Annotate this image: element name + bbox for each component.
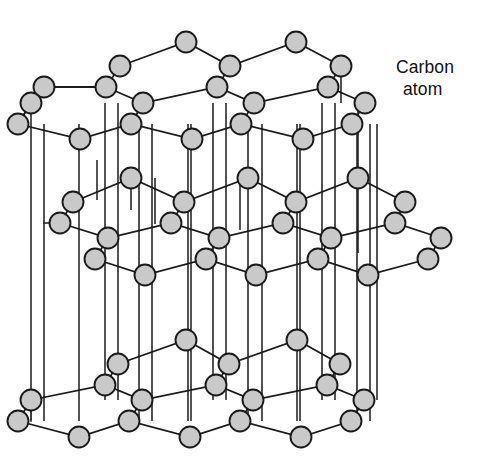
carbon-atom [355,93,376,114]
carbon-atom [246,265,267,286]
carbon-atom [342,114,363,135]
carbon-atom [318,77,339,98]
carbon-atom [321,228,342,249]
carbon-atom [207,77,228,98]
carbon-atom [431,228,452,249]
carbon-atom [209,228,230,249]
carbon-atom [63,192,84,213]
carbon-atom [244,93,265,114]
carbon-atom [21,390,42,411]
carbon-atom [231,114,252,135]
carbon-atom-label: Carbonatom [396,56,454,100]
carbon-atom [8,411,29,432]
carbon-atom [206,375,227,396]
carbon-atom [121,114,142,135]
carbon-atom [308,249,329,270]
carbon-atom [348,168,369,189]
carbon-atom [95,375,116,396]
carbon-atom [341,411,362,432]
carbon-atom [286,32,307,53]
carbon-atom [132,390,153,411]
carbon-atom [174,192,195,213]
carbon-atom [196,249,217,270]
carbon-atom [108,354,129,375]
carbon-atom [110,56,131,77]
carbon-atom [317,375,338,396]
carbon-atom [291,427,312,448]
carbon-atom [220,56,241,77]
carbon-atom [385,213,406,234]
carbon-atom [85,249,106,270]
graphite-structure-figure: Carbonatom [0,0,486,456]
carbon-atom [135,265,156,286]
carbon-atom [182,129,203,150]
carbon-atom [238,168,259,189]
carbon-atom [50,213,71,234]
carbon-atom [243,390,264,411]
carbon-atom [354,390,375,411]
carbon-atom [133,93,154,114]
carbon-atom [119,411,140,432]
carbon-atom [230,411,251,432]
carbon-atom [69,427,90,448]
carbon-atom [180,427,201,448]
carbon-atom [98,228,119,249]
carbon-atom [21,93,42,114]
carbon-atom [273,213,294,234]
carbon-atom [418,249,439,270]
carbon-atom [176,32,197,53]
carbon-atom [8,114,29,135]
carbon-atom-label-line1: Carbon [396,57,454,77]
carbon-atom-label-line2: atom [396,78,454,100]
carbon-atom [70,129,91,150]
carbon-atom [161,213,182,234]
carbon-atom [96,77,117,98]
carbon-atom [293,129,314,150]
carbon-atom [176,330,197,351]
carbon-atom [331,56,352,77]
carbon-atom [287,330,308,351]
carbon-atom [330,354,351,375]
carbon-atom [358,265,379,286]
carbon-atom [121,168,142,189]
carbon-atom [286,192,307,213]
carbon-atom [395,192,416,213]
carbon-atom [219,354,240,375]
